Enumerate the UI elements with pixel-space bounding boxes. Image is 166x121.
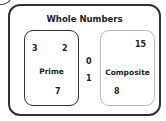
prime-label: Prime [25, 67, 78, 76]
composite-label: Composite [101, 68, 154, 77]
composite-member: 8 [114, 87, 120, 96]
corner-decoration [0, 0, 13, 5]
prime-member: 2 [62, 44, 68, 53]
outside-member: 0 [86, 57, 92, 66]
whole-numbers-set: Whole Numbers 3 2 Prime 7 0 1 15 Composi… [8, 4, 161, 116]
outside-member: 1 [86, 74, 92, 83]
composite-member: 15 [135, 40, 146, 49]
diagram-title: Whole Numbers [10, 14, 159, 24]
prime-member: 7 [55, 87, 61, 96]
composite-set: 15 Composite 8 [100, 30, 155, 106]
prime-member: 3 [32, 44, 38, 53]
prime-set: 3 2 Prime 7 [24, 30, 79, 106]
